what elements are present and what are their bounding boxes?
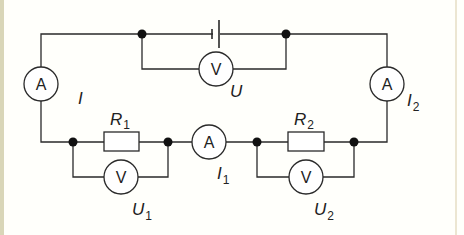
voltmeter-2-letter: V bbox=[301, 169, 312, 186]
voltmeter-2: V bbox=[289, 160, 323, 194]
junction-node bbox=[164, 138, 173, 147]
diagram-frame: V U A I A I2 R1 R2 A bbox=[0, 0, 464, 235]
junction-node bbox=[138, 30, 147, 39]
left-lower-wire bbox=[41, 101, 104, 142]
ammeter-main: A bbox=[24, 67, 58, 101]
voltmeter-2-loop-right bbox=[323, 142, 354, 177]
ammeter-2: A bbox=[370, 67, 404, 101]
ammeter-1-letter: A bbox=[204, 134, 215, 151]
label-i1: I1 bbox=[217, 164, 230, 187]
voltmeter-1-loop-right bbox=[138, 142, 168, 177]
label-r2: R2 bbox=[294, 110, 314, 132]
label-i: I bbox=[78, 89, 83, 108]
right-lower-wire bbox=[324, 101, 387, 142]
voltmeter-total-letter: V bbox=[211, 61, 222, 78]
voltmeter-2-loop-left bbox=[257, 142, 289, 177]
junction-node bbox=[253, 138, 262, 147]
label-u: U bbox=[230, 82, 243, 101]
label-u2: U2 bbox=[314, 200, 334, 223]
voltmeter-1-loop-left bbox=[73, 142, 104, 177]
junction-node bbox=[282, 30, 291, 39]
label-r1: R1 bbox=[110, 110, 130, 132]
ammeter-main-letter: A bbox=[36, 76, 47, 93]
voltmeter-1-letter: V bbox=[116, 169, 127, 186]
junction-node bbox=[350, 138, 359, 147]
junction-node bbox=[69, 138, 78, 147]
resistor-1 bbox=[104, 132, 139, 151]
voltmeter-1: V bbox=[104, 160, 138, 194]
resistor-2 bbox=[288, 132, 324, 151]
voltmeter-total: V bbox=[199, 52, 233, 86]
circuit-diagram: V U A I A I2 R1 R2 A bbox=[0, 0, 464, 235]
battery-icon bbox=[212, 20, 219, 48]
ammeter-2-letter: A bbox=[382, 76, 393, 93]
ammeter-1: A bbox=[192, 125, 226, 159]
label-u1: U1 bbox=[132, 200, 152, 223]
label-i2: I2 bbox=[407, 91, 420, 114]
